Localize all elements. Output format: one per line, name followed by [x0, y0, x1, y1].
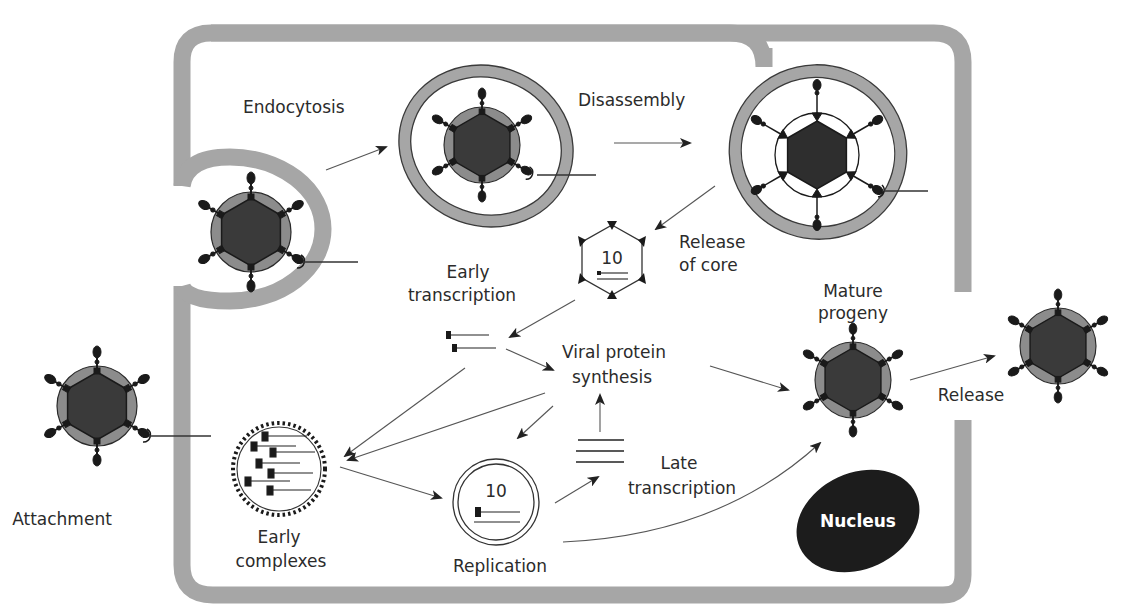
label-viral-protein-synthesis-2: synthesis — [572, 367, 652, 387]
arrow-protein-to-replication — [518, 406, 553, 438]
virion-released — [1007, 289, 1110, 403]
label-early-complexes-2: complexes — [236, 551, 327, 571]
arrow-endocytosis — [326, 147, 386, 170]
arrow-protein-to-complexes — [348, 393, 545, 460]
arrow-complexes-to-replication — [340, 467, 441, 498]
label-viral-protein-synthesis-1: Viral protein — [562, 342, 666, 362]
label-disassembly: Disassembly — [578, 90, 685, 110]
late-mrna — [576, 440, 624, 462]
endosome-uncoated — [705, 40, 932, 264]
nucleus: Nucleus — [780, 450, 937, 591]
replication-segment-count: 10 — [485, 481, 507, 501]
virion-endocytosis — [197, 172, 358, 292]
label-early-transcription-2: transcription — [408, 285, 516, 305]
label-mature-progeny-1: Mature — [823, 281, 883, 301]
replication-particle: 10 — [453, 459, 539, 545]
arrow-release-core — [656, 186, 715, 229]
label-endocytosis: Endocytosis — [243, 97, 345, 117]
endosome-virion — [376, 41, 596, 252]
label-release-of-core-2: of core — [679, 255, 738, 275]
arrow-mrna-to-complexes — [345, 368, 465, 456]
released-core: 10 — [578, 221, 646, 299]
label-late-transcription-2: transcription — [628, 478, 736, 498]
core-segment-count: 10 — [601, 248, 623, 268]
arrow-replication-to-late — [555, 477, 598, 503]
label-mature-progeny-2: progeny — [818, 303, 888, 323]
virion-mature-progeny — [802, 323, 905, 437]
label-release-of-core-1: Release — [679, 232, 745, 252]
label-late-transcription-1: Late — [660, 453, 697, 473]
arrow-to-protein-synthesis — [506, 349, 553, 370]
label-early-complexes-1: Early — [258, 527, 301, 547]
early-mrna — [446, 331, 496, 352]
label-attachment: Attachment — [12, 509, 112, 529]
arrow-early-transcription — [510, 300, 575, 337]
label-replication: Replication — [453, 556, 547, 576]
early-complexes — [233, 423, 325, 515]
virus-replication-diagram: Nucleus Attachment Endocytosis Disassemb… — [0, 0, 1132, 615]
label-early-transcription-1: Early — [447, 262, 490, 282]
label-release: Release — [938, 385, 1004, 405]
arrow-release — [910, 356, 994, 380]
arrow-protein-to-progeny — [710, 366, 788, 390]
nucleus-label: Nucleus — [820, 511, 896, 531]
